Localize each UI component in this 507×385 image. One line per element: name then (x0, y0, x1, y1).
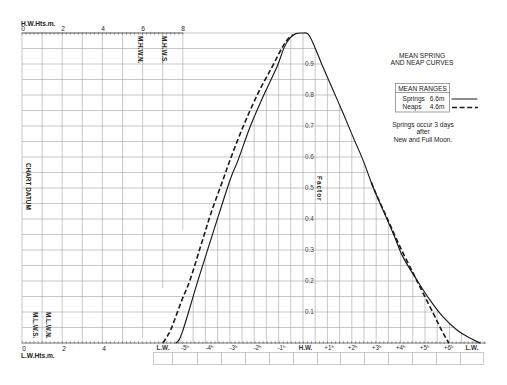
chart-datum-label: CHART DATUM (25, 163, 32, 210)
title-line-1: MEAN SPRING (399, 52, 445, 59)
lw-heights-axis-title: L.W.Hts.m. (21, 352, 55, 359)
tidal-curve-diagram: 0.10.20.30.40.50.60.70.80.9 L.W.-5ʰ-4ʰ-3… (0, 0, 507, 385)
title-line-2: AND NEAP CURVES (391, 59, 454, 66)
legend-neaps-value: 4.6m (430, 103, 445, 110)
mlwn-label: M.L.W.N. (45, 312, 52, 339)
time-entry-cell (365, 353, 389, 365)
time-entry-cell (389, 353, 413, 365)
time-axis-label: -3ʰ (229, 344, 238, 351)
time-axis-label: L.W. (466, 344, 479, 351)
note-line-3: New and Full Moon. (394, 136, 453, 143)
legend-header: MEAN RANGES (398, 85, 447, 92)
time-axis-label: -2ʰ (253, 344, 262, 351)
time-axis-label: L.W. (157, 344, 170, 351)
time-entry-cell (154, 353, 173, 365)
time-axis-label: -4ʰ (205, 344, 214, 351)
mhws-label: M.H.W.S. (161, 36, 168, 63)
factor-axis-title: Factor (316, 176, 323, 202)
time-axis-label: +5ʰ (420, 344, 430, 351)
hw-axis-tick-2: 2 (61, 25, 65, 32)
lw-axis-tick-2: 2 (62, 345, 66, 352)
factor-tick-label: 0.8 (305, 91, 314, 98)
time-entry-cell (437, 353, 461, 365)
time-entry-cell (246, 353, 270, 365)
time-axis-label: +6ʰ (444, 344, 454, 351)
factor-tick-label: 0.9 (305, 60, 314, 67)
factor-tick-label: 0.1 (305, 308, 314, 315)
factor-tick-label: 0.5 (305, 184, 314, 191)
time-entry-cell (413, 353, 437, 365)
factor-tick-label: 0.7 (305, 122, 314, 129)
hw-heights-axis-title: H.W.Hts.m. (21, 20, 56, 27)
time-entry-cell (198, 353, 222, 365)
mhwn-label: M.H.W.N. (137, 36, 144, 64)
time-axis-label: +1ʰ (324, 344, 334, 351)
time-entry-cell (461, 353, 484, 365)
hw-axis-tick-8: 8 (181, 25, 185, 32)
time-axis-label: -5ʰ (181, 344, 190, 351)
factor-tick-label: 0.4 (305, 215, 314, 222)
time-axis-label: +2ʰ (348, 344, 358, 351)
factor-tick-label: 0.6 (305, 153, 314, 160)
time-entry-cell (173, 353, 198, 365)
note-line-2: after (416, 128, 430, 135)
factor-tick-label: 0.2 (305, 277, 314, 284)
time-axis-label: +4ʰ (396, 344, 406, 351)
mlws-label: M.L.W.S. (32, 312, 39, 338)
hw-axis-tick-6: 6 (141, 25, 145, 32)
time-entry-cell (270, 353, 294, 365)
time-entry-cell (222, 353, 246, 365)
legend-springs-label: Springs (403, 95, 426, 103)
legend-springs-value: 6.6m (430, 95, 445, 102)
time-axis-label: H.W. (299, 344, 313, 351)
lw-axis-tick-0: 0 (22, 345, 26, 352)
time-entry-cell (294, 353, 318, 365)
factor-tick-label: 0.3 (305, 246, 314, 253)
time-axis-label: +3ʰ (372, 344, 382, 351)
time-entry-cell (341, 353, 365, 365)
diagram-title: MEAN SPRING AND NEAP CURVES (391, 52, 454, 67)
legend-neaps-label: Neaps (403, 103, 423, 111)
hw-axis-tick-4: 4 (101, 25, 105, 32)
lw-axis-tick-4: 4 (102, 345, 106, 352)
time-axis-label: -1ʰ (277, 344, 286, 351)
hw-axis-tick-0: 0 (21, 25, 25, 32)
time-entry-cell (318, 353, 341, 365)
